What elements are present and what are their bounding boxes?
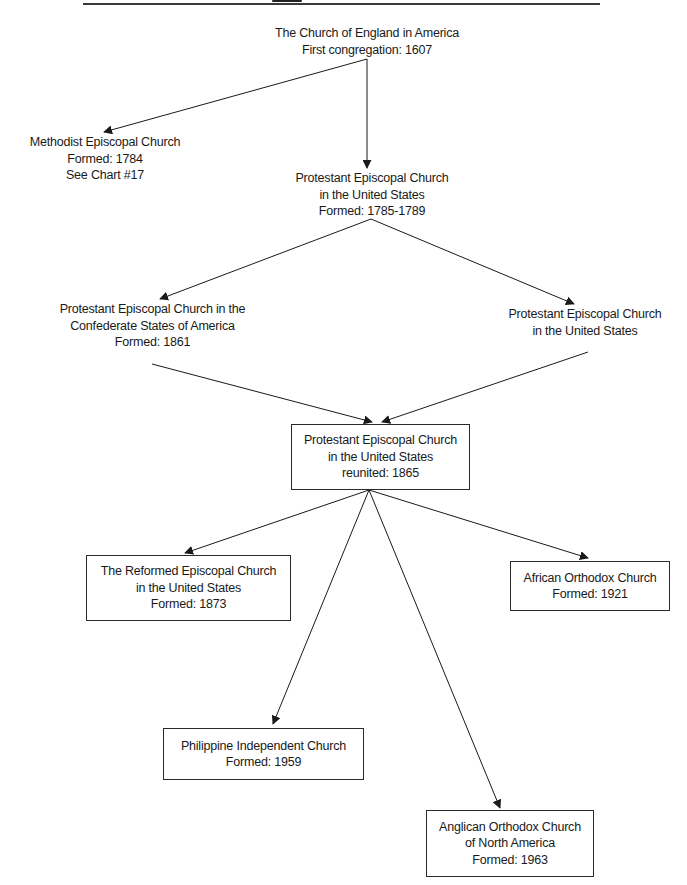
edge-pec-us-to-confederate <box>160 219 371 299</box>
node-line: Formed: 1963 <box>472 852 547 869</box>
node-line: Anglican Orthodox Church <box>439 819 581 836</box>
edge-england-to-methodist <box>104 59 367 132</box>
node-line: Protestant Episcopal Church <box>495 306 675 323</box>
node-line: Protestant Episcopal Church in the <box>30 301 275 318</box>
node-line: in the United States <box>328 449 433 466</box>
node-african-orthodox: African Orthodox Church Formed: 1921 <box>510 561 670 611</box>
node-line: Formed: 1921 <box>552 586 627 603</box>
node-line: Formed: 1784 <box>10 151 200 168</box>
node-line: in the United States <box>495 323 675 340</box>
node-church-of-england: The Church of England in America First c… <box>267 25 467 58</box>
node-line: Formed: 1873 <box>151 596 226 613</box>
node-protestant-episcopal-confederate: Protestant Episcopal Church in the Confe… <box>30 301 275 351</box>
edge-confederate-to-reunited <box>152 364 372 422</box>
node-reformed-episcopal: The Reformed Episcopal Church in the Uni… <box>86 555 291 621</box>
node-methodist-episcopal: Methodist Episcopal Church Formed: 1784 … <box>10 134 200 184</box>
node-line: See Chart #17 <box>10 167 200 184</box>
node-line: reunited: 1865 <box>342 465 419 482</box>
node-anglican-orthodox: Anglican Orthodox Church of North Americ… <box>426 810 594 877</box>
node-line: The Church of England in America <box>267 25 467 42</box>
node-line: of North America <box>465 835 555 852</box>
node-line: African Orthodox Church <box>524 570 657 587</box>
node-line: in the United States <box>277 187 467 204</box>
node-line: in the United States <box>136 580 241 597</box>
node-line: Methodist Episcopal Church <box>10 134 200 151</box>
node-line: Philippine Independent Church <box>181 738 346 755</box>
node-protestant-episcopal-reunited: Protestant Episcopal Church in the Unite… <box>291 424 470 490</box>
node-line: Formed: 1861 <box>30 334 275 351</box>
node-line: Protestant Episcopal Church <box>304 432 457 449</box>
node-philippine-independent: Philippine Independent Church Formed: 19… <box>163 728 364 780</box>
edge-reunited-to-african <box>369 490 588 558</box>
edge-reunited-to-reformed <box>185 490 369 553</box>
node-line: Formed: 1785-1789 <box>277 203 467 220</box>
edge-reunited-to-anglican <box>369 490 500 808</box>
node-line: Formed: 1959 <box>226 754 301 771</box>
node-line: First congregation: 1607 <box>267 42 467 59</box>
node-protestant-episcopal-us: Protestant Episcopal Church in the Unite… <box>277 170 467 220</box>
node-protestant-episcopal-us-union: Protestant Episcopal Church in the Unite… <box>495 306 675 339</box>
node-line: Protestant Episcopal Church <box>277 170 467 187</box>
edge-pec-us-to-union <box>371 219 574 304</box>
node-line: Confederate States of America <box>30 318 275 335</box>
edge-union-to-reunited <box>382 352 588 422</box>
node-line: The Reformed Episcopal Church <box>101 563 277 580</box>
